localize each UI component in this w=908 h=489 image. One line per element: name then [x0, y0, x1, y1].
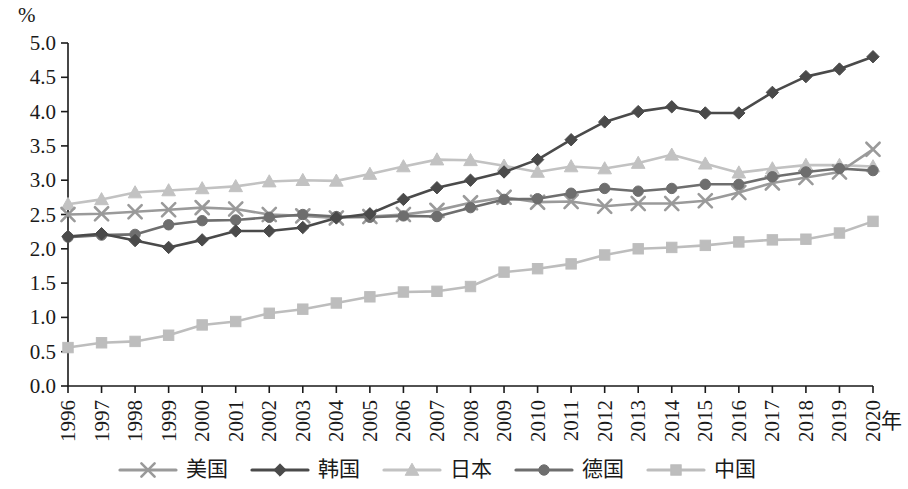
data-point-德国-2016 [734, 179, 744, 189]
data-point-美国-2020 [866, 143, 879, 156]
data-point-德国-2012 [599, 183, 609, 193]
data-point-中国-1996-square-marker [63, 342, 73, 352]
data-point-中国-2012-square-marker [599, 250, 609, 260]
data-point-德国-2003-circle-marker [298, 209, 308, 219]
data-point-韩国-2016 [733, 107, 745, 119]
x-tick-label: 1996 [56, 400, 80, 442]
data-point-德国-2018-circle-marker [801, 167, 811, 177]
legend-label-日本: 日本 [450, 457, 492, 481]
data-point-中国-2006-square-marker [398, 287, 408, 297]
x-tick-label: 2006 [391, 400, 415, 442]
data-point-德国-2001 [231, 215, 241, 225]
x-tick-label: 2011 [559, 400, 583, 441]
legend-label-中国: 中国 [714, 457, 756, 481]
data-point-韩国-2018-diamond-marker [800, 70, 812, 82]
data-point-中国-2002-square-marker [264, 308, 274, 318]
data-point-中国-2000 [197, 320, 207, 330]
data-point-韩国-2013-diamond-marker [632, 105, 644, 117]
data-point-德国-2011 [566, 188, 576, 198]
data-point-中国-2015 [700, 240, 710, 250]
data-point-韩国-2014-diamond-marker [666, 101, 678, 113]
legend-marker-中国-square-marker [671, 465, 681, 475]
data-point-中国-2010 [532, 263, 542, 273]
legend-item-中国[interactable]: 中国 [648, 457, 756, 481]
data-point-韩国-2002 [263, 225, 275, 237]
data-point-中国-2000-square-marker [197, 320, 207, 330]
y-tick-label: 1.5 [30, 271, 56, 295]
x-tick-label: 1997 [90, 400, 114, 442]
x-tick-label: 2014 [660, 400, 684, 443]
data-point-韩国-2002-diamond-marker [263, 225, 275, 237]
axis-frame [68, 43, 873, 386]
legend-marker-中国 [671, 465, 681, 475]
data-point-韩国-2010 [531, 153, 543, 165]
data-point-中国-2018 [801, 234, 811, 244]
x-tick-label: 2004 [324, 400, 348, 443]
x-tick-label: 2010 [526, 400, 550, 442]
data-point-德国-1999 [163, 220, 173, 230]
series-container [61, 51, 880, 353]
data-point-韩国-2018 [800, 70, 812, 82]
legend-label-韩国: 韩国 [318, 457, 360, 481]
y-tick-label: 4.5 [30, 65, 56, 89]
data-point-韩国-2001-diamond-marker [230, 225, 242, 237]
data-point-中国-1999 [163, 330, 173, 340]
legend-marker-德国-circle-marker [539, 465, 549, 475]
data-point-韩国-2000-diamond-marker [196, 234, 208, 246]
legend-item-美国[interactable]: 美国 [120, 457, 228, 481]
x-tick-label: 2009 [492, 400, 516, 442]
data-point-德国-2010-circle-marker [532, 194, 542, 204]
data-point-中国-2005 [365, 292, 375, 302]
chart-page: % 0.00.51.01.52.02.53.03.54.04.55.0 1996… [0, 0, 908, 489]
x-tick-label: 2016 [727, 400, 751, 442]
x-tick-label: 2013 [626, 400, 650, 442]
data-point-德国-2006 [398, 211, 408, 221]
data-point-韩国-1999-diamond-marker [162, 241, 174, 253]
data-point-德国-2012-circle-marker [599, 183, 609, 193]
data-point-韩国-2015 [699, 107, 711, 119]
data-point-德国-2007-circle-marker [432, 211, 442, 221]
data-point-德国-2020 [868, 165, 878, 175]
x-tick-label: 2019 [827, 400, 851, 442]
data-point-德国-2000 [197, 215, 207, 225]
data-point-中国-2007 [432, 286, 442, 296]
data-point-中国-2015-square-marker [700, 240, 710, 250]
x-tick-label: 2008 [459, 400, 483, 442]
x-tick-label: 2012 [593, 400, 617, 442]
x-tick-label: 2015 [693, 400, 717, 442]
data-point-韩国-2017 [766, 86, 778, 98]
legend-item-德国[interactable]: 德国 [516, 457, 624, 481]
chart-legend: 美国韩国日本德国中国 [120, 457, 756, 481]
data-point-德国-2010 [532, 194, 542, 204]
data-point-德国-2008 [465, 202, 475, 212]
data-point-中国-2006 [398, 287, 408, 297]
legend-marker-韩国-diamond-marker [274, 464, 286, 476]
data-point-中国-2001-square-marker [231, 316, 241, 326]
data-point-德国-2013-circle-marker [633, 186, 643, 196]
y-tick-label: 5.0 [30, 31, 56, 55]
data-point-韩国-2020 [867, 51, 879, 63]
data-point-韩国-2013 [632, 105, 644, 117]
data-point-德国-2014 [667, 183, 677, 193]
x-tick-label: 1999 [157, 400, 181, 442]
data-point-德国-2013 [633, 186, 643, 196]
y-axis-unit: % [18, 3, 36, 27]
y-tick-label: 2.5 [30, 203, 56, 227]
y-tick-label: 3.5 [30, 134, 56, 158]
data-point-中国-2020 [868, 216, 878, 226]
data-point-中国-2013 [633, 244, 643, 254]
legend-label-美国: 美国 [186, 457, 228, 481]
x-tick-label: 2000 [190, 400, 214, 442]
data-point-韩国-2019-diamond-marker [833, 63, 845, 75]
legend-item-韩国[interactable]: 韩国 [252, 457, 360, 481]
data-point-中国-2007-square-marker [432, 286, 442, 296]
data-point-德国-2015 [700, 179, 710, 189]
data-point-中国-2003 [298, 304, 308, 314]
data-point-德国-2007 [432, 211, 442, 221]
data-point-德国-2001-circle-marker [231, 215, 241, 225]
data-point-中国-2008 [465, 281, 475, 291]
legend-item-日本[interactable]: 日本 [384, 457, 492, 481]
data-point-德国-2002 [264, 212, 274, 222]
axis-lines [68, 43, 873, 386]
data-point-韩国-2016-diamond-marker [733, 107, 745, 119]
